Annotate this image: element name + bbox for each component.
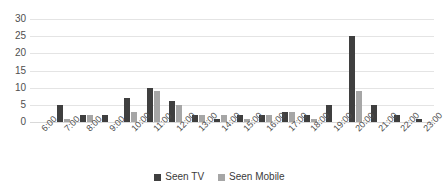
y-axis-tick-label: 0 <box>20 117 26 127</box>
x-axis-tick-slot: 19:00 <box>322 122 344 166</box>
legend-entry[interactable]: Seen Mobile <box>218 172 285 182</box>
bar-group <box>299 19 321 122</box>
bar-group <box>52 19 74 122</box>
x-axis-tick-slot: 9:00 <box>97 122 119 166</box>
bar-group <box>367 19 389 122</box>
bar-group <box>389 19 411 122</box>
x-axis-tick-slot: 16:00 <box>254 122 276 166</box>
x-axis-tick-slot: 18:00 <box>299 122 321 166</box>
x-axis-tick-slot: 17:00 <box>277 122 299 166</box>
legend-label: Seen TV <box>165 172 204 182</box>
x-axis-tick-slot: 13:00 <box>187 122 209 166</box>
legend-swatch-icon <box>218 174 225 181</box>
x-axis-tick-slot: 23:00 <box>411 122 433 166</box>
y-axis-tick-label: 20 <box>15 48 26 58</box>
bar-group <box>142 19 164 122</box>
legend-swatch-icon <box>154 174 161 181</box>
bar-group <box>165 19 187 122</box>
x-axis-tick-slot: 6:00 <box>30 122 52 166</box>
legend-entry[interactable]: Seen TV <box>154 172 204 182</box>
bar-group <box>210 19 232 122</box>
bar-tv <box>349 36 355 122</box>
x-axis-tick-slot: 12:00 <box>165 122 187 166</box>
bar-group <box>232 19 254 122</box>
y-axis-tick-label: 25 <box>15 31 26 41</box>
bar-group <box>75 19 97 122</box>
bar-group <box>187 19 209 122</box>
x-axis-tick-slot: 8:00 <box>75 122 97 166</box>
bar-tv <box>124 98 130 122</box>
x-axis-tick-slot: 11:00 <box>142 122 164 166</box>
y-axis: 051015202530 <box>0 19 26 122</box>
x-axis-tick-slot: 21:00 <box>367 122 389 166</box>
bar-group <box>30 19 52 122</box>
y-axis-tick-label: 5 <box>20 100 26 110</box>
bar-group <box>120 19 142 122</box>
x-axis-tick-slot: 20:00 <box>344 122 366 166</box>
bar-group <box>97 19 119 122</box>
y-axis-tick-label: 30 <box>15 14 26 24</box>
bar-group <box>411 19 433 122</box>
x-axis-tick-slot: 22:00 <box>389 122 411 166</box>
x-axis-tick-slot: 14:00 <box>210 122 232 166</box>
bar-group <box>277 19 299 122</box>
bar-series-container <box>30 19 434 122</box>
plot-area <box>30 19 434 122</box>
x-axis-tick-slot: 15:00 <box>232 122 254 166</box>
y-axis-tick-label: 10 <box>15 83 26 93</box>
x-axis-tick-slot: 7:00 <box>52 122 74 166</box>
bar-group <box>344 19 366 122</box>
legend-label: Seen Mobile <box>229 172 285 182</box>
chart-legend: Seen TVSeen Mobile <box>0 172 439 182</box>
bar-group <box>322 19 344 122</box>
x-axis: 6:007:008:009:0010:0011:0012:0013:0014:0… <box>30 122 434 166</box>
y-axis-tick-label: 15 <box>15 66 26 76</box>
bar-group <box>254 19 276 122</box>
x-axis-tick-slot: 10:00 <box>120 122 142 166</box>
